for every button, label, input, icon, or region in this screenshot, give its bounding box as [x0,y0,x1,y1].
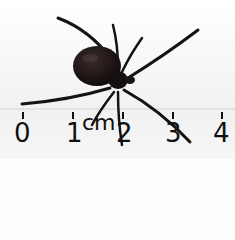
ruler-label-2: 2 [116,120,133,146]
ruler-label-3: 3 [165,120,182,146]
ruler-label-0: 0 [14,120,31,146]
ruler-label-1: 1 [66,120,83,146]
ruler-label-4: 4 [213,120,230,146]
ruler-unit-label: cm [82,112,116,134]
